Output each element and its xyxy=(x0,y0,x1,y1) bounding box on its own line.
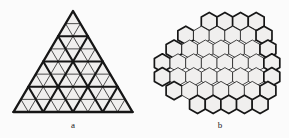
hexagon-cell xyxy=(252,95,268,113)
figure-canvas xyxy=(0,0,289,138)
panel-b-hexagon-cluster-figure xyxy=(154,12,279,113)
hexagon-cell xyxy=(190,95,206,113)
figure-container: a b xyxy=(0,0,289,138)
panel-b-label: b xyxy=(210,120,230,130)
hexagon-cell xyxy=(205,95,221,113)
panel-a-label: a xyxy=(63,120,83,130)
hexagon-cell xyxy=(236,95,252,113)
hexagon-cell xyxy=(154,68,170,86)
hexagon-cell xyxy=(166,81,182,99)
panel-a-triangle-figure xyxy=(14,11,133,112)
hexagon-cell xyxy=(221,95,237,113)
